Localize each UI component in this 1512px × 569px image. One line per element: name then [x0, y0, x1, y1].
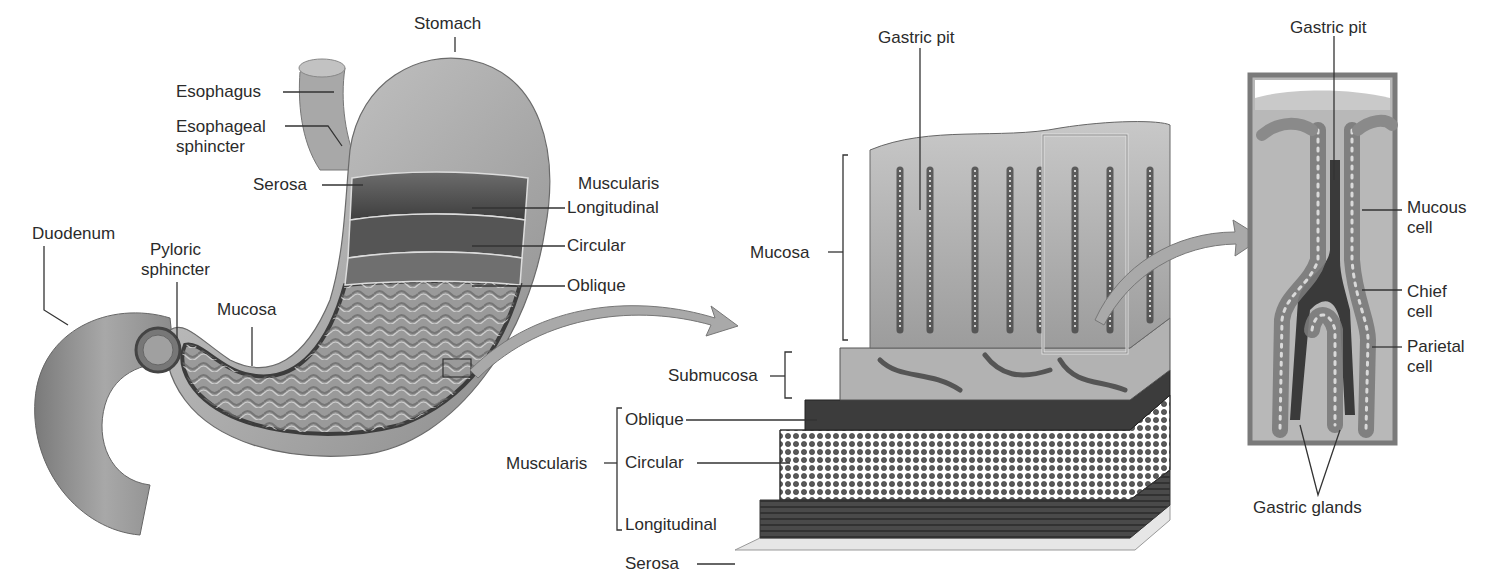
- label-parietal-cell: Parietal cell: [1407, 337, 1465, 377]
- label-mucous-cell: Mucous cell: [1407, 198, 1467, 238]
- label-mucosa-wall: Mucosa: [750, 243, 810, 263]
- label-circular-wall: Circular: [625, 453, 684, 473]
- label-esophagus: Esophagus: [176, 82, 261, 102]
- label-muscularis-stomach: Muscularis: [578, 174, 659, 194]
- label-mucosa-stomach: Mucosa: [217, 300, 277, 320]
- label-circular-stomach: Circular: [567, 236, 626, 256]
- label-longitudinal-stomach: Longitudinal: [567, 198, 659, 218]
- label-pyloric-sphincter: Pyloric sphincter: [141, 240, 210, 280]
- label-chief-cell: Chief cell: [1407, 282, 1447, 322]
- label-stomach: Stomach: [414, 14, 481, 34]
- stomach-illustration: [35, 58, 550, 535]
- label-muscularis-wall: Muscularis: [506, 454, 587, 474]
- label-submucosa: Submucosa: [668, 366, 758, 386]
- label-gastric-glands: Gastric glands: [1253, 498, 1362, 518]
- label-gastric-pit-gland: Gastric pit: [1290, 18, 1367, 38]
- label-serosa-stomach: Serosa: [253, 175, 307, 195]
- label-gastric-pit-wall: Gastric pit: [878, 28, 955, 48]
- gastric-gland-illustration: [1250, 75, 1395, 443]
- label-duodenum: Duodenum: [32, 224, 115, 244]
- label-esophageal-sphincter: Esophageal sphincter: [176, 117, 266, 157]
- label-oblique-wall: Oblique: [625, 410, 684, 430]
- label-serosa-wall: Serosa: [625, 554, 679, 569]
- label-oblique-stomach: Oblique: [567, 276, 626, 296]
- label-longitudinal-wall: Longitudinal: [625, 515, 717, 535]
- stomach-wall-illustration: [735, 122, 1170, 550]
